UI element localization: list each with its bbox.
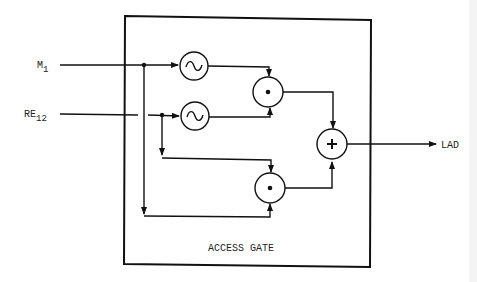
filter1-to-mult1-line <box>208 66 269 76</box>
block-label: ACCESS GATE <box>208 243 274 254</box>
output-label-lad: LAD <box>441 140 459 151</box>
re12-signal-line <box>60 114 138 115</box>
page-edge <box>469 0 477 282</box>
filter2-to-mult1-line <box>209 108 270 117</box>
multiply-dot-icon <box>268 186 273 191</box>
m1-to-mult2-line <box>144 204 270 217</box>
re12-to-mult2-line <box>162 158 271 172</box>
input-label-re12: RE12 <box>24 109 47 124</box>
mult2-to-adder-line <box>285 162 332 188</box>
mult1-to-adder-line <box>283 92 333 128</box>
multiply-dot-icon <box>266 90 271 95</box>
input-label-m1: M1 <box>37 60 48 75</box>
access-gate-diagram: M1 RE12 LAD ACCESS GATE <box>0 0 477 282</box>
